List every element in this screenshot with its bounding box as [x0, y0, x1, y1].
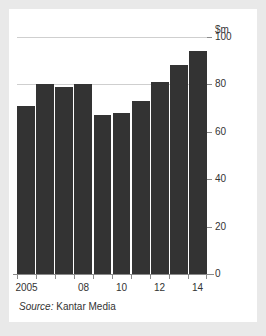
y-axis: 020406080100 — [207, 37, 259, 274]
y-axis-tick-label: 20 — [215, 220, 245, 233]
chart-card: $m 020406080100 200508101214 Source: Kan… — [9, 9, 257, 322]
bar — [113, 113, 131, 274]
y-axis-tickmark — [207, 179, 212, 180]
x-axis-tick-label: 2005 — [15, 281, 37, 294]
x-axis-tickmark — [169, 274, 170, 279]
bar — [151, 82, 169, 274]
x-axis-tick-label: 14 — [192, 281, 203, 294]
bar — [189, 51, 207, 274]
y-axis-tickmark — [207, 132, 212, 133]
y-axis-tick: 80 — [207, 84, 257, 85]
bar — [17, 106, 35, 274]
x-axis-tickmark — [17, 274, 18, 279]
bar — [74, 84, 92, 274]
x-axis-tickmark — [93, 274, 94, 279]
x-axis-tickmark — [74, 274, 75, 279]
x-axis-tickmark — [36, 274, 37, 279]
y-axis-tick-label: 100 — [215, 30, 245, 43]
y-axis-tick: 40 — [207, 179, 257, 180]
y-axis-tick: 60 — [207, 132, 257, 133]
bar — [55, 87, 73, 274]
x-axis-tickmark — [188, 274, 189, 279]
source-prefix: Source: — [19, 301, 53, 312]
y-axis-tickmark — [207, 84, 212, 85]
x-axis-tick-label: 10 — [116, 281, 127, 294]
x-axis-labels: 200508101214 — [17, 281, 207, 295]
x-axis-tick-label: 12 — [154, 281, 165, 294]
y-axis-tick: 20 — [207, 227, 257, 228]
y-axis-tickmark — [207, 274, 212, 275]
chart-area: $m 020406080100 200508101214 — [9, 9, 257, 295]
plot-area — [17, 37, 207, 274]
bar — [36, 84, 54, 274]
y-axis-tick: 100 — [207, 37, 257, 38]
x-axis-tickmark — [206, 274, 207, 279]
x-axis-tickmark — [112, 274, 113, 279]
source-note: Source: Kantar Media — [19, 300, 116, 313]
bar — [132, 101, 150, 274]
y-axis-tickmark — [207, 227, 212, 228]
source-name: Kantar Media — [56, 301, 115, 312]
bar — [170, 65, 188, 274]
x-axis: 200508101214 — [17, 274, 207, 296]
x-axis-tickmark — [55, 274, 56, 279]
x-axis-tickmarks — [17, 274, 207, 279]
x-axis-tickmark — [131, 274, 132, 279]
y-axis-tick-label: 0 — [215, 267, 245, 280]
x-axis-tick-label: 08 — [78, 281, 89, 294]
bar-series — [17, 37, 207, 274]
y-axis-tick: 0 — [207, 274, 257, 275]
y-axis-tickmark — [207, 37, 212, 38]
bar — [94, 115, 112, 274]
y-axis-tick-label: 80 — [215, 77, 245, 90]
y-axis-tick-label: 60 — [215, 125, 245, 138]
chart-page: $m 020406080100 200508101214 Source: Kan… — [0, 0, 266, 336]
y-axis-tick-label: 40 — [215, 172, 245, 185]
x-axis-tickmark — [150, 274, 151, 279]
